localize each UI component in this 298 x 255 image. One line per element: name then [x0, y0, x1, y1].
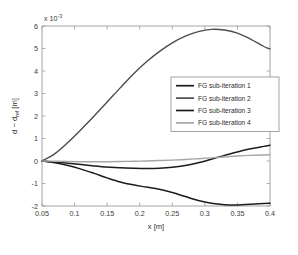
y-tick-label: 2	[34, 112, 38, 121]
exponent-base: x 10	[44, 14, 58, 23]
y-tick-label: -2	[32, 202, 38, 211]
y-axis-exponent-label: x 10-3	[44, 13, 62, 23]
figure-container: 0.050.10.150.20.250.30.350.4 -2-10123456…	[0, 0, 298, 255]
y-tick-label: 0	[34, 157, 38, 166]
exponent-power: -3	[58, 13, 63, 19]
legend-label-1: FG sub-iteration 1	[198, 82, 251, 89]
x-axis-tick-labels: 0.050.10.150.20.250.30.350.4	[35, 209, 275, 218]
legend-label-3: FG sub-iteration 3	[198, 107, 251, 114]
y-tick-label: 1	[34, 134, 38, 143]
y-tick-label: 6	[34, 22, 38, 31]
x-tick-label: 0.1	[70, 209, 80, 218]
y-tick-label: 5	[34, 44, 38, 53]
y-axis-title: d − dref [m]	[10, 98, 20, 134]
y-title-unit: [m]	[10, 98, 19, 111]
x-axis-title: x [m]	[148, 222, 164, 231]
y-tick-label: 3	[34, 89, 38, 98]
line-chart: 0.050.10.150.20.250.30.350.4 -2-10123456…	[0, 0, 298, 255]
x-tick-label: 0.2	[135, 209, 145, 218]
legend-label-2: FG sub-iteration 2	[198, 95, 251, 102]
x-tick-label: 0.25	[165, 209, 179, 218]
svg-text:d − dref [m]: d − dref [m]	[10, 98, 20, 134]
x-tick-label: 0.35	[230, 209, 244, 218]
y-tick-label: 4	[34, 67, 38, 76]
chart-legend: FG sub-iteration 1FG sub-iteration 2FG s…	[171, 77, 279, 132]
legend-label-4: FG sub-iteration 4	[198, 119, 251, 126]
y-axis-tick-labels: -2-10123456	[32, 22, 38, 211]
x-tick-label: 0.15	[100, 209, 114, 218]
x-tick-label: 0.3	[200, 209, 210, 218]
x-tick-label: 0.4	[265, 209, 275, 218]
y-tick-label: -1	[32, 179, 38, 188]
y-title-main: d − d	[10, 117, 19, 134]
